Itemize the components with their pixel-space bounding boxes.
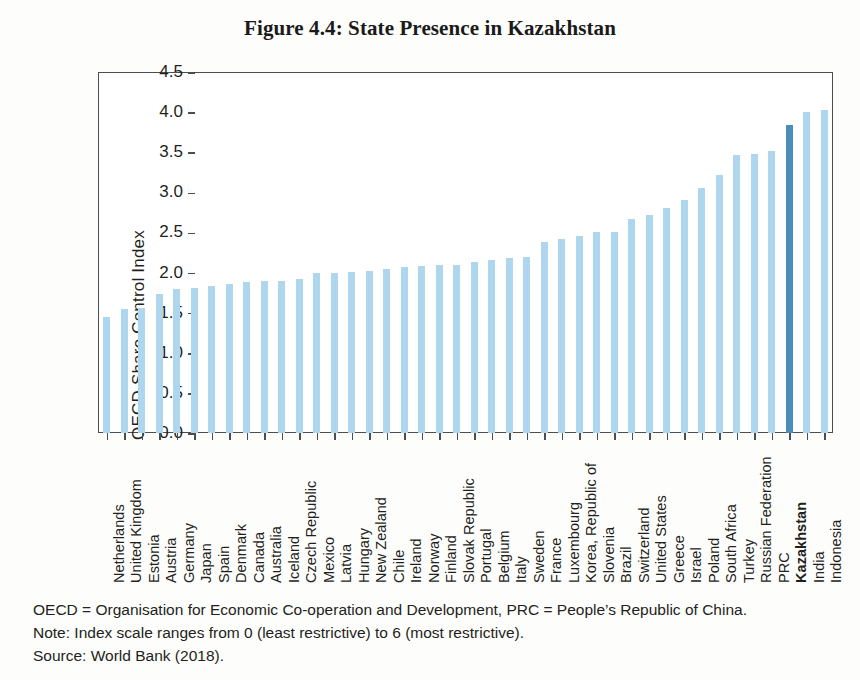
x-tick-mark bbox=[492, 433, 493, 440]
x-tick-label: United States bbox=[654, 495, 669, 583]
x-tick-label: Australia bbox=[269, 526, 284, 583]
x-tick-label: Switzerland bbox=[637, 508, 652, 584]
bar bbox=[103, 317, 110, 433]
x-tick-label: Russian Federation bbox=[759, 456, 774, 583]
x-tick-label: Estonia bbox=[147, 534, 162, 583]
x-tick-mark bbox=[194, 433, 195, 440]
x-tick-mark bbox=[632, 433, 633, 440]
x-tick-mark bbox=[667, 433, 668, 440]
x-tick-label: Iceland bbox=[287, 536, 302, 583]
bar bbox=[348, 272, 355, 433]
x-tick-label: Brazil bbox=[619, 546, 634, 583]
x-tick-label: Denmark bbox=[234, 524, 249, 583]
x-tick-mark bbox=[439, 433, 440, 440]
x-tick-label: France bbox=[549, 538, 564, 583]
x-tick-label: Luxembourg bbox=[567, 502, 582, 583]
bar bbox=[418, 266, 425, 433]
bar bbox=[698, 188, 705, 433]
x-tick-mark bbox=[177, 433, 178, 440]
x-tick-mark bbox=[282, 433, 283, 440]
x-tick-label: Hungary bbox=[357, 528, 372, 583]
x-tick-label: Ireland bbox=[409, 538, 424, 583]
x-tick-label: Italy bbox=[514, 556, 529, 583]
x-tick-mark bbox=[597, 433, 598, 440]
x-tick-mark bbox=[387, 433, 388, 440]
bar bbox=[138, 308, 145, 433]
x-tick-mark bbox=[299, 433, 300, 440]
x-tick-mark bbox=[824, 433, 825, 440]
x-tick-mark bbox=[719, 433, 720, 440]
x-tick-mark bbox=[404, 433, 405, 440]
bar bbox=[751, 154, 758, 433]
x-tick-mark bbox=[229, 433, 230, 440]
x-tick-label: Chile bbox=[392, 550, 407, 583]
bar bbox=[173, 289, 180, 433]
bars-layer bbox=[98, 72, 833, 433]
x-tick-mark bbox=[737, 433, 738, 440]
x-tick-mark bbox=[474, 433, 475, 440]
x-tick-mark bbox=[684, 433, 685, 440]
x-tick-label: Israel bbox=[689, 547, 704, 583]
x-tick-label: Poland bbox=[707, 538, 722, 583]
bar bbox=[383, 269, 390, 433]
chart-title: Figure 4.4: State Presence in Kazakhstan bbox=[0, 16, 860, 41]
x-tick-label: India bbox=[812, 551, 827, 583]
x-tick-label: New Zealand bbox=[374, 497, 389, 583]
x-tick-mark bbox=[789, 433, 790, 440]
x-tick-mark bbox=[754, 433, 755, 440]
x-tick-label: Turkey bbox=[742, 539, 757, 583]
bar bbox=[226, 284, 233, 433]
bar bbox=[593, 232, 600, 433]
x-tick-label: Sweden bbox=[532, 530, 547, 583]
x-tick-label: Indonesia bbox=[829, 520, 844, 583]
bar bbox=[611, 232, 618, 433]
bar bbox=[313, 273, 320, 433]
bar bbox=[768, 151, 775, 433]
bar bbox=[558, 239, 565, 433]
bar bbox=[663, 208, 670, 433]
bar bbox=[576, 236, 583, 433]
x-tick-label: South Africa bbox=[724, 504, 739, 583]
x-tick-mark bbox=[422, 433, 423, 440]
x-tick-label: Belgium bbox=[497, 530, 512, 583]
bar bbox=[191, 288, 198, 433]
bar bbox=[261, 281, 268, 433]
bar bbox=[733, 155, 740, 433]
x-axis-ticks bbox=[98, 433, 833, 441]
x-tick-mark bbox=[702, 433, 703, 440]
x-tick-mark bbox=[807, 433, 808, 440]
footnotes-block: OECD = Organisation for Economic Co-oper… bbox=[33, 598, 845, 667]
x-tick-mark bbox=[124, 433, 125, 440]
bar bbox=[278, 281, 285, 433]
x-tick-label: Netherlands bbox=[112, 504, 127, 583]
x-tick-label: Finland bbox=[444, 535, 459, 583]
x-tick-mark bbox=[614, 433, 615, 440]
x-tick-label: Kazakhstan bbox=[794, 502, 809, 583]
x-tick-mark bbox=[317, 433, 318, 440]
x-tick-mark bbox=[562, 433, 563, 440]
x-tick-mark bbox=[369, 433, 370, 440]
x-tick-mark bbox=[509, 433, 510, 440]
x-tick-mark bbox=[142, 433, 143, 440]
bar bbox=[121, 309, 128, 433]
bar bbox=[401, 267, 408, 433]
x-tick-label: Latvia bbox=[339, 544, 354, 583]
x-tick-label: Slovenia bbox=[602, 527, 617, 583]
bar bbox=[628, 219, 635, 433]
bar bbox=[436, 265, 443, 433]
bar bbox=[523, 257, 530, 433]
bar bbox=[453, 265, 460, 433]
footnote-source: Source: World Bank (2018). bbox=[33, 644, 845, 667]
x-tick-mark bbox=[334, 433, 335, 440]
x-tick-mark bbox=[772, 433, 773, 440]
bar bbox=[208, 286, 215, 433]
x-tick-label: Mexico bbox=[322, 537, 337, 583]
bar bbox=[786, 125, 793, 433]
x-tick-label: Austria bbox=[164, 538, 179, 583]
x-tick-mark bbox=[544, 433, 545, 440]
x-tick-mark bbox=[649, 433, 650, 440]
bar bbox=[716, 175, 723, 433]
x-tick-label: Japan bbox=[199, 543, 214, 583]
x-tick-label: Spain bbox=[217, 546, 232, 583]
figure-container: Figure 4.4: State Presence in Kazakhstan… bbox=[0, 0, 860, 680]
